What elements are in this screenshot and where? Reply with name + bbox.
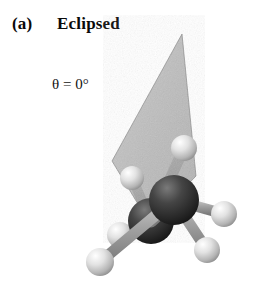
hydrogen-atom — [86, 248, 114, 276]
hydrogen-atom — [171, 135, 197, 161]
hydrogen-atom — [120, 166, 144, 190]
figure-panel-a-eclipsed: (a) Eclipsed θ = 0° — [0, 0, 266, 296]
molecule-stage — [0, 0, 266, 296]
ethane-molecule-diagram — [0, 0, 266, 296]
carbon-atom-front — [149, 175, 199, 225]
hydrogen-atom — [194, 237, 220, 263]
hydrogen-atom — [211, 201, 237, 227]
